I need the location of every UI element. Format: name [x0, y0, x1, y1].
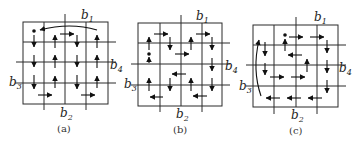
- panel-b-grid: [131, 15, 230, 112]
- start-dot: [32, 29, 36, 33]
- label-b4: b4: [110, 58, 123, 74]
- label-b4: b4: [225, 59, 238, 75]
- start-dot: [283, 33, 287, 37]
- caption-a: (a): [57, 123, 71, 134]
- label-b3: b3: [239, 79, 252, 95]
- panel-a-grid: [15, 14, 116, 110]
- return-arc-arrow: [256, 40, 261, 96]
- panel-c-grid: [246, 17, 346, 114]
- caption-b: (b): [173, 124, 187, 135]
- figure-canvas: b1 b4 b3 b2 (a): [0, 0, 358, 142]
- panel-a: b1 b4 b3 b2 (a): [9, 8, 123, 134]
- return-arc-arrow: [40, 26, 97, 30]
- caption-c: (c): [289, 125, 303, 136]
- label-b3: b3: [9, 75, 22, 91]
- panel-c-path: [256, 33, 327, 98]
- panel-c: b1 b4 b3 b2 (c): [239, 10, 352, 136]
- label-b2: b2: [176, 107, 189, 123]
- label-b1: b1: [81, 8, 94, 24]
- label-b2: b2: [60, 106, 73, 122]
- label-b4: b4: [339, 61, 352, 77]
- label-b2: b2: [291, 108, 304, 124]
- label-b3: b3: [124, 77, 137, 93]
- label-b1: b1: [196, 9, 209, 25]
- start-dot: [147, 52, 151, 56]
- panel-b: b1 b4 b3 b2 (b): [124, 9, 238, 135]
- label-b1: b1: [314, 10, 327, 26]
